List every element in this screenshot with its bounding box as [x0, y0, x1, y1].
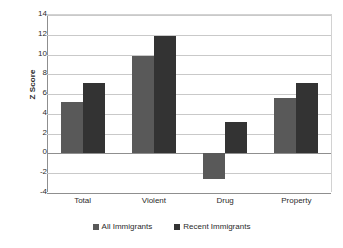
bar: [296, 83, 318, 153]
x-tick-label: Violent: [119, 196, 189, 205]
y-tick-label: 2: [7, 129, 47, 137]
bar: [225, 122, 247, 154]
x-tick-label: Property: [261, 196, 331, 205]
y-tick-label: -2: [7, 168, 47, 176]
bar: [203, 153, 225, 179]
y-tick-label: 10: [7, 50, 47, 58]
bar: [61, 102, 83, 153]
bar-chart-figure: Z Score 14121086420-2-4 TotalViolentDrug…: [0, 0, 343, 248]
bar-group: [132, 15, 176, 192]
x-tick-label: Total: [48, 196, 118, 205]
legend-label: All Immigrants: [102, 222, 153, 231]
bar-group: [61, 15, 105, 192]
y-tick-label: 12: [7, 30, 47, 38]
bar: [154, 36, 176, 154]
y-tick-label: 14: [7, 10, 47, 18]
y-tick-label: 0: [7, 148, 47, 156]
legend-swatch-icon: [174, 224, 180, 230]
y-tick-label: 8: [7, 69, 47, 77]
bar: [274, 98, 296, 153]
chart-legend: All ImmigrantsRecent Immigrants: [0, 222, 343, 231]
legend-swatch-icon: [93, 224, 99, 230]
bar-group: [203, 15, 247, 192]
legend-entry: Recent Immigrants: [174, 222, 250, 231]
plot-area: [47, 14, 332, 192]
legend-label: Recent Immigrants: [183, 222, 250, 231]
y-axis-title: Z Score: [28, 55, 37, 115]
y-tick-label: 6: [7, 89, 47, 97]
x-tick-label: Drug: [190, 196, 260, 205]
bar-group: [274, 15, 318, 192]
bar: [83, 83, 105, 153]
y-tick-label: 4: [7, 109, 47, 117]
y-tick-label: -4: [7, 188, 47, 196]
bar: [132, 56, 154, 154]
gridline--4: [47, 193, 331, 194]
legend-entry: All Immigrants: [93, 222, 153, 231]
